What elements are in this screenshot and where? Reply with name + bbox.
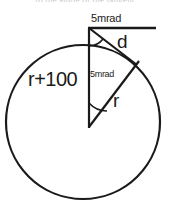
label-inner-radius: r: [113, 90, 119, 112]
label-center-angle: 5mrad: [90, 69, 114, 79]
diagram-canvas: [0, 0, 170, 211]
geometry-figure: to the angle of the tangent 5mrad d r+10…: [0, 0, 170, 211]
label-top-angle: 5mrad: [91, 12, 121, 24]
label-outer-radius: r+100: [28, 68, 77, 91]
label-chord-d: d: [117, 31, 128, 53]
